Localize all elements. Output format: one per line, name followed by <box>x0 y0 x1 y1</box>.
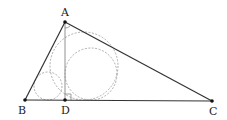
label-b: B <box>18 104 26 117</box>
incircle-abd <box>34 72 62 100</box>
label-c: C <box>209 105 217 118</box>
side-ca <box>65 22 212 101</box>
incircle-acd <box>65 48 117 100</box>
incircle-abc <box>50 32 118 100</box>
point-a <box>63 20 67 24</box>
point-b <box>23 98 27 102</box>
point-d <box>63 98 67 102</box>
geometry-diagram: A B D C <box>0 0 227 120</box>
side-bc <box>25 100 212 101</box>
label-d: D <box>61 104 70 117</box>
angle-mark-a <box>65 26 70 28</box>
point-c <box>210 99 214 103</box>
label-a: A <box>60 6 70 19</box>
side-ab <box>25 22 65 100</box>
